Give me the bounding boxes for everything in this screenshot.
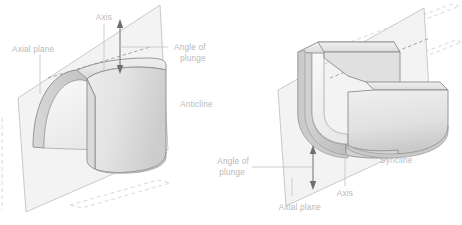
syncline-angle-of-plunge-label-line1: Angle of [217, 157, 249, 166]
anticline-axis-label: Axis [96, 13, 112, 22]
fold-diagram-labels: Axis Axial plane Angle of plunge Anticli… [0, 0, 462, 225]
syncline-axial-plane-label: Axial plane [279, 203, 322, 212]
anticline-axial-plane-label: Axial plane [12, 45, 55, 54]
syncline-angle-of-plunge-label-line2: plunge [219, 168, 245, 177]
anticline-fold-name-label: Anticline [180, 100, 213, 109]
syncline-fold-name-label: Syncline [380, 156, 413, 165]
anticline-angle-of-plunge-label-line1: Angle of [174, 43, 206, 52]
figure-canvas: Axis Axial plane Angle of plunge Anticli… [0, 0, 462, 225]
anticline-angle-of-plunge-label-line2: plunge [180, 54, 206, 63]
syncline-axis-label: Axis [337, 189, 353, 198]
